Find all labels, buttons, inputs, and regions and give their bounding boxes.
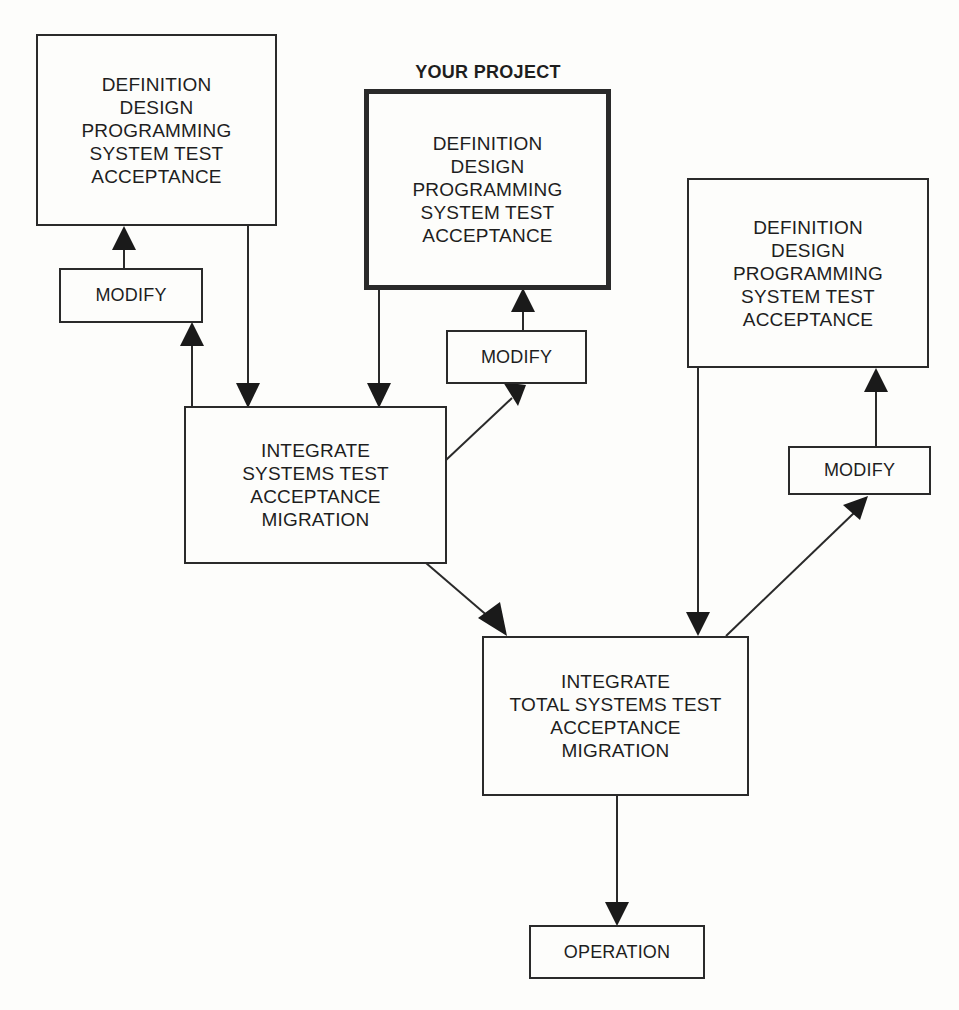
modify-box-right: MODIFY (788, 446, 931, 495)
box-text: ACCEPTANCE (743, 308, 873, 331)
arrowhead-down-icon (236, 383, 260, 408)
your-project-label: YOUR PROJECT (365, 62, 611, 83)
box-text: MODIFY (95, 284, 166, 307)
box-text: DEFINITION (753, 216, 863, 239)
integrate-box: INTEGRATE SYSTEMS TEST ACCEPTANCE MIGRAT… (184, 406, 447, 564)
operation-box: OPERATION (529, 925, 705, 979)
modify-box-center: MODIFY (446, 330, 587, 384)
box-text: MODIFY (481, 346, 552, 369)
box-text: MIGRATION (261, 508, 369, 531)
project-box-center-highlighted: DEFINITION DESIGN PROGRAMMING SYSTEM TES… (364, 89, 611, 290)
total-integrate-box: INTEGRATE TOTAL SYSTEMS TEST ACCEPTANCE … (482, 636, 749, 796)
box-text: TOTAL SYSTEMS TEST (510, 693, 722, 716)
box-text: PROGRAMMING (413, 178, 563, 201)
box-text: SYSTEMS TEST (242, 462, 389, 485)
arrowhead-diagonal-icon (478, 602, 507, 636)
box-text: SYSTEM TEST (741, 285, 875, 308)
box-text: PROGRAMMING (733, 262, 883, 285)
box-text: ACCEPTANCE (422, 224, 552, 247)
box-text: DESIGN (450, 155, 524, 178)
box-text: MODIFY (824, 459, 895, 482)
box-text: MIGRATION (561, 739, 669, 762)
arrowhead-up-icon (180, 322, 204, 346)
arrow-integrate-to-total (426, 563, 490, 618)
box-text: DESIGN (119, 96, 193, 119)
project-box-left: DEFINITION DESIGN PROGRAMMING SYSTEM TES… (36, 34, 277, 226)
box-text: SYSTEM TEST (90, 142, 224, 165)
arrow-integrate-to-modify-center (446, 398, 512, 460)
modify-box-left: MODIFY (59, 268, 203, 323)
box-text: ACCEPTANCE (91, 165, 221, 188)
box-text: ACCEPTANCE (550, 716, 680, 739)
box-text: PROGRAMMING (82, 119, 232, 142)
box-text: DEFINITION (433, 132, 543, 155)
arrowhead-down-icon (367, 383, 391, 408)
box-text: DESIGN (771, 239, 845, 262)
box-text: DEFINITION (102, 73, 212, 96)
arrowhead-diagonal-icon (843, 496, 868, 520)
arrowhead-up-icon (511, 288, 535, 312)
arrowhead-down-icon (605, 902, 629, 926)
arrowhead-up-icon (112, 226, 136, 250)
box-text: ACCEPTANCE (250, 485, 380, 508)
box-text: INTEGRATE (261, 439, 370, 462)
project-box-right: DEFINITION DESIGN PROGRAMMING SYSTEM TES… (687, 178, 929, 368)
box-text: INTEGRATE (561, 670, 670, 693)
arrowhead-down-icon (686, 612, 710, 636)
box-text: SYSTEM TEST (421, 201, 555, 224)
arrowhead-up-icon (864, 368, 888, 392)
box-text: OPERATION (564, 941, 670, 964)
arrow-total-to-modify-right (726, 512, 855, 636)
